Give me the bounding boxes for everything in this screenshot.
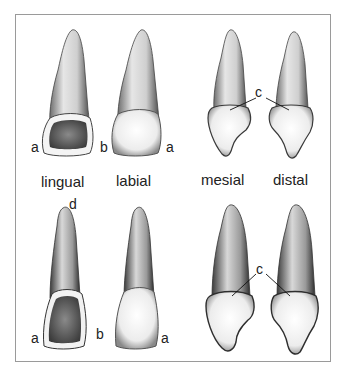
label-a-bottom-lingual: a xyxy=(31,331,39,345)
tooth-bottom-lingual xyxy=(43,207,86,349)
tooth-top-mesial xyxy=(208,30,250,156)
label-a-top-labial: a xyxy=(166,140,174,154)
label-c-top: c xyxy=(255,85,262,99)
view-label-lingual: lingual xyxy=(41,174,84,189)
view-label-distal: distal xyxy=(273,172,308,187)
view-label-mesial: mesial xyxy=(201,172,244,187)
label-d-bottom-lingual: d xyxy=(69,197,77,211)
label-a-bottom-labial: a xyxy=(161,331,169,345)
tooth-top-lingual xyxy=(42,30,93,156)
label-b-top-labial: b xyxy=(100,140,108,154)
tooth-top-distal xyxy=(269,32,313,158)
label-c-bottom: c xyxy=(256,262,263,276)
label-b-bottom-labial: b xyxy=(96,327,104,341)
tooth-top-labial xyxy=(112,30,161,156)
tooth-bottom-labial xyxy=(115,207,158,349)
tooth-bottom-distal xyxy=(271,205,318,354)
tooth-bottom-mesial xyxy=(206,205,254,351)
view-label-labial: labial xyxy=(116,173,151,188)
label-a-top-lingual: a xyxy=(31,140,39,154)
